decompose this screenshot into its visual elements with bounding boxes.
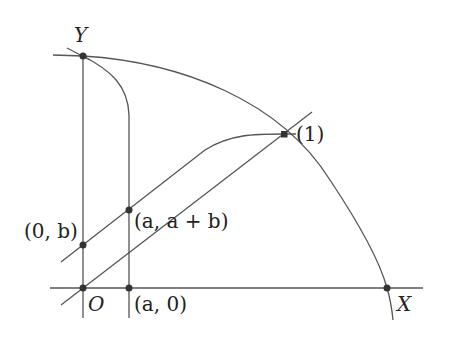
one-point xyxy=(281,131,288,138)
y-axis-point xyxy=(80,53,87,60)
one-label: (1) xyxy=(296,122,324,146)
y-axis-label: Y xyxy=(74,23,89,47)
zero-b-point xyxy=(80,242,87,249)
outer-arc-curve xyxy=(53,55,393,320)
a-ab-label: (a, a + b) xyxy=(134,209,228,233)
diagram-canvas: Y X O (a, 0) (0, b) (a, a + b) (1) xyxy=(0,0,449,345)
x-axis-point xyxy=(384,285,391,292)
origin-label: O xyxy=(88,292,104,316)
vertical-a-curve xyxy=(83,56,129,318)
x-axis-label: X xyxy=(395,292,412,316)
origin-point xyxy=(80,285,87,292)
a-ab-point xyxy=(126,207,133,214)
zero-b-label: (0, b) xyxy=(24,219,78,243)
a0-point xyxy=(126,285,133,292)
upper-diagonal-curve xyxy=(61,134,296,262)
a0-label: (a, 0) xyxy=(134,292,187,316)
